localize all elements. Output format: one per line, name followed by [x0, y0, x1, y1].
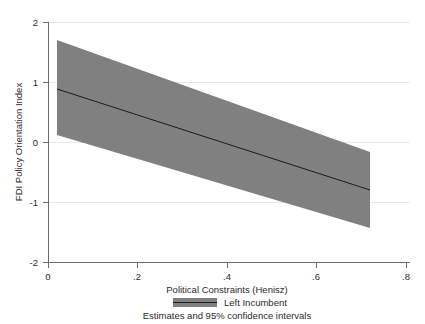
y-tick-label-neg2: -2: [30, 257, 38, 268]
y-tick-label-2: 2: [33, 17, 38, 28]
chart-container: 2 1 0 -1 -2 0 .2 .4 .6 .8 FDI Policy Ori…: [0, 0, 425, 324]
confidence-interval-band: [57, 40, 370, 228]
x-tick-label-0: 0: [45, 271, 50, 282]
legend-entry-label: Left Incumbent: [224, 297, 287, 308]
x-tick-label-08: .8: [402, 271, 410, 282]
y-tick-label-1: 1: [33, 77, 38, 88]
x-tick-label-04: .4: [223, 271, 231, 282]
legend-footnote: Estimates and 95% confidence intervals: [143, 310, 312, 321]
x-tick-label-06: .6: [312, 271, 320, 282]
y-tick-labels: 2 1 0 -1 -2: [30, 17, 38, 268]
y-tick-label-neg1: -1: [30, 197, 38, 208]
x-axis-title: Political Constraints (Henisz): [166, 284, 287, 295]
x-tick-labels: 0 .2 .4 .6 .8: [45, 271, 410, 282]
x-tick-label-02: .2: [133, 271, 141, 282]
fdi-policy-orientation-chart: 2 1 0 -1 -2 0 .2 .4 .6 .8 FDI Policy Ori…: [0, 0, 425, 324]
y-axis-title: FDI Policy Orientation Index: [13, 83, 24, 202]
chart-legend: Left Incumbent Estimates and 95% confide…: [143, 297, 312, 321]
y-tick-label-0: 0: [33, 137, 38, 148]
